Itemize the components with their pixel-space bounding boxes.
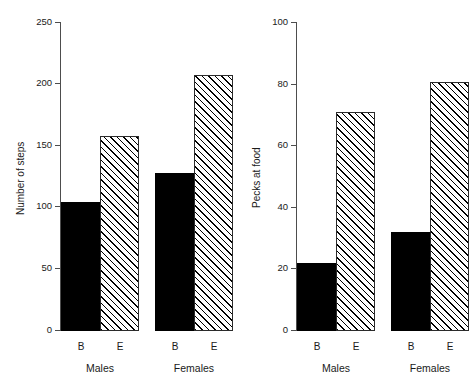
bar-left-females-b [155,173,194,331]
y-axis-tick-left-200 [55,83,60,84]
y-axis-tick-left-0 [55,330,60,331]
y-axis-title-left: Number of steps [16,142,26,215]
x-axis-group-label-left-males: Males [60,363,140,374]
bar-left-males-e [100,136,139,331]
x-axis-category-label-right-females-e: E [433,342,467,352]
y-axis-tick-right-100 [291,22,296,23]
x-axis-group-label-left-females: Females [154,363,234,374]
chart-panel-pecks-at-food: 100 80 60 40 20 0 Pecks at food B E B E … [236,0,472,387]
y-axis-tick-right-0 [291,330,296,331]
y-axis-tick-label-left-0: 0 [20,325,52,335]
y-axis-tick-right-80 [291,84,296,85]
y-axis-tick-right-40 [291,207,296,208]
bar-right-males-b [297,263,336,331]
y-axis-tick-right-60 [291,145,296,146]
x-axis-category-label-right-females-b: B [394,342,428,352]
y-axis-tick-label-right-20: 20 [256,263,288,273]
bar-left-females-e [194,75,233,331]
x-axis-category-label-right-males-e: E [339,342,373,352]
y-axis-tick-label-left-50: 50 [20,263,52,273]
x-axis-category-label-left-males-b: B [64,342,98,352]
bar-right-males-e [336,112,375,331]
y-axis-tick-label-right-80: 80 [256,79,288,89]
y-axis-tick-left-100 [55,206,60,207]
bar-left-males-b [61,202,100,331]
y-axis-title-right: Pecks at food [252,147,262,208]
x-axis-category-label-right-males-b: B [300,342,334,352]
chart-panel-number-of-steps: 250 200 150 100 50 0 Number of steps B E… [0,0,236,387]
y-axis-tick-label-left-250: 250 [20,17,52,27]
y-axis-tick-right-20 [291,268,296,269]
y-axis-tick-label-right-0: 0 [256,325,288,335]
y-axis-tick-label-left-200: 200 [20,78,52,88]
bar-right-females-b [391,232,430,331]
x-axis-category-label-left-males-e: E [103,342,137,352]
y-axis-tick-left-150 [55,145,60,146]
x-axis-category-label-left-females-b: B [158,342,192,352]
x-axis-group-label-right-males: Males [296,363,376,374]
bar-right-females-e [430,82,469,331]
y-axis-tick-left-250 [55,22,60,23]
x-axis-group-label-right-females: Females [390,363,470,374]
x-axis-category-label-left-females-e: E [197,342,231,352]
y-axis-tick-left-50 [55,268,60,269]
y-axis-tick-label-right-100: 100 [256,17,288,27]
figure-two-panel-bar-charts: 250 200 150 100 50 0 Number of steps B E… [0,0,472,387]
